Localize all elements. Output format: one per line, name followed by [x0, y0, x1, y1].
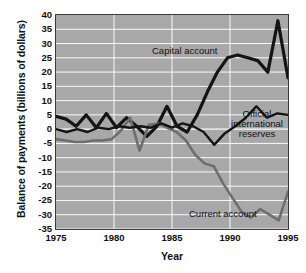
x-axis-label: Year	[55, 250, 289, 262]
y-tick-15: 15	[41, 82, 52, 90]
x-axis-tick-labels: 19751980198519901995	[55, 232, 289, 248]
y-tick-neg30: -30	[38, 211, 52, 219]
y-tick-neg20: -20	[38, 182, 52, 190]
chart-figure: Balance of payments (billions of dollars…	[0, 0, 306, 273]
x-tick-1985: 1985	[161, 232, 182, 243]
y-tick-35: 35	[41, 25, 52, 33]
y-tick-neg10: -10	[38, 154, 52, 162]
x-tick-1995: 1995	[277, 232, 298, 243]
y-tick-neg5: -5	[44, 139, 52, 147]
y-tick-30: 30	[41, 40, 52, 48]
y-tick-25: 25	[41, 54, 52, 62]
x-tick-1990: 1990	[219, 232, 240, 243]
y-tick-neg15: -15	[38, 168, 52, 176]
y-tick-20: 20	[41, 68, 52, 76]
y-axis-tick-labels: 4035302520151050-5-10-15-20-25-30-35	[22, 14, 52, 230]
x-tick-1980: 1980	[103, 232, 124, 243]
plot-svg	[56, 15, 288, 229]
y-tick-0: 0	[47, 125, 52, 133]
y-tick-5: 5	[47, 111, 52, 119]
y-tick-40: 40	[41, 11, 52, 19]
x-tick-1975: 1975	[45, 232, 66, 243]
plot-area: Capital account Official international r…	[55, 14, 289, 230]
y-tick-neg25: -25	[38, 196, 52, 204]
y-tick-10: 10	[41, 97, 52, 105]
